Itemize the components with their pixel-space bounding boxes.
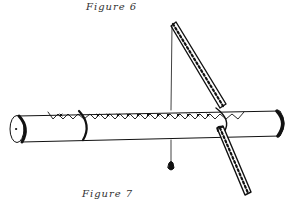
plumb-bob-icon xyxy=(168,162,174,171)
figure-7-caption: Figure 7 xyxy=(82,188,133,199)
plumb-line xyxy=(168,26,174,170)
tube-illustration xyxy=(0,0,287,204)
measuring-stick-upper xyxy=(171,22,226,108)
